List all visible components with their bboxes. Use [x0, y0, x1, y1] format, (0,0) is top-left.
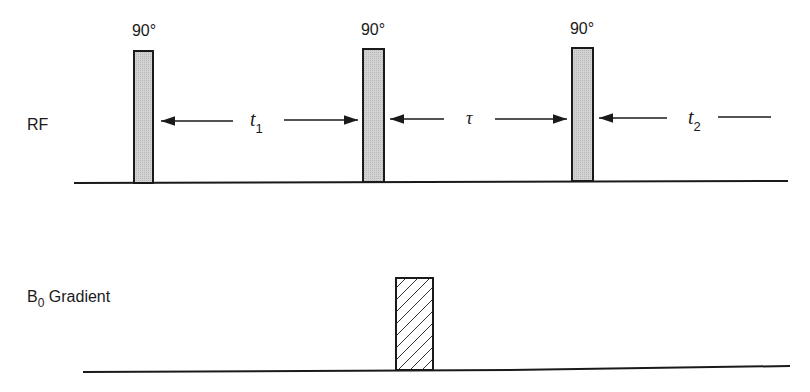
rf-pulse-2: 90° — [361, 21, 385, 182]
pulse-2-angle-label: 90° — [361, 21, 385, 38]
gradient-row-label: B0 Gradient — [27, 288, 111, 310]
pulse-1-angle-label: 90° — [132, 22, 156, 39]
pulse-3-angle-label: 90° — [570, 20, 594, 37]
interval-tau: τ — [390, 108, 567, 128]
tau-symbol: τ — [466, 108, 473, 128]
rf-pulse-3: 90° — [570, 20, 594, 181]
rf-pulse-1: 90° — [132, 22, 156, 183]
gradient-baseline-left — [83, 370, 510, 372]
t1-symbol: t1 — [250, 108, 263, 136]
rf-row-label: RF — [27, 116, 49, 133]
interval-t2: t2 — [599, 106, 771, 134]
gradient-pulse — [396, 278, 433, 370]
pulse-sequence-diagram: RF 90° 90° 90° t1 τ t2 B0 Gradient — [0, 0, 810, 392]
interval-t1: t1 — [161, 108, 358, 136]
rf-baseline — [74, 181, 788, 183]
gradient-baseline-right — [510, 366, 790, 370]
t2-symbol: t2 — [688, 106, 701, 134]
